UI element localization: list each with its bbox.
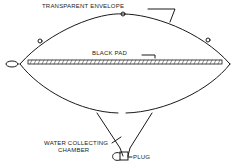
plug-loop: [113, 153, 121, 161]
left-tie-loop: [6, 61, 18, 67]
attachment-point-right: [206, 38, 210, 42]
plug-label: PLUG: [133, 154, 150, 161]
envelope-label: TRANSPARENT ENVELOPE: [42, 3, 124, 10]
pad-label: BLACK PAD: [92, 50, 127, 57]
funnel-right: [128, 113, 152, 156]
envelope-leader: [148, 9, 175, 22]
chamber-label-line1: WATER COLLECTING: [44, 140, 108, 147]
envelope-lower-arc-right: [126, 64, 230, 113]
pad-leader: [142, 55, 155, 58]
attachment-point-left: [38, 39, 42, 43]
funnel-left: [97, 113, 123, 156]
diagram-drawing: [0, 0, 232, 168]
envelope-lower-arc: [20, 64, 118, 113]
balloon-diagram: TRANSPARENT ENVELOPE BLACK PAD WATER COL…: [0, 0, 232, 168]
black-pad: [28, 60, 222, 64]
chamber-label-line2: CHAMBER: [58, 147, 89, 154]
plug: [120, 152, 128, 160]
pad-hatching: [30, 60, 220, 64]
